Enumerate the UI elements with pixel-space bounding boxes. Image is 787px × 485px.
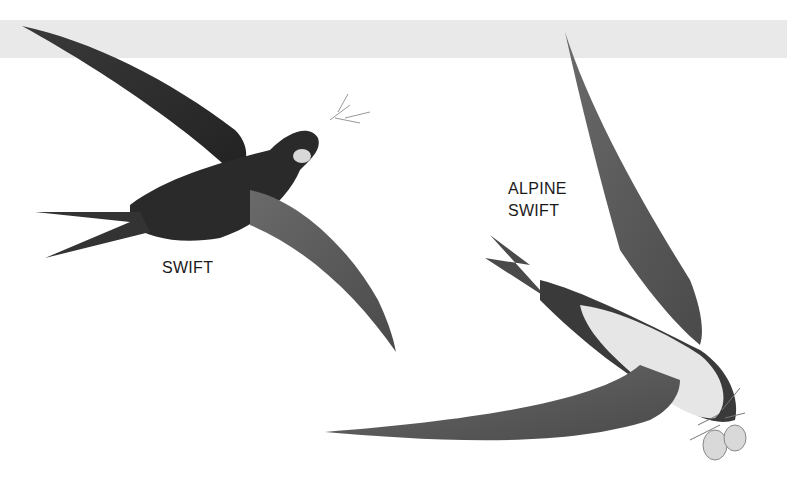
alpine-swift-label-line1: ALPINE (508, 178, 567, 199)
alpine-swift-bird (325, 32, 746, 460)
common-swift-bird (22, 26, 396, 352)
swifts-illustration (0, 0, 787, 485)
alpine-swift-label-line2: SWIFT (508, 200, 559, 221)
swift-label: SWIFT (162, 257, 213, 278)
